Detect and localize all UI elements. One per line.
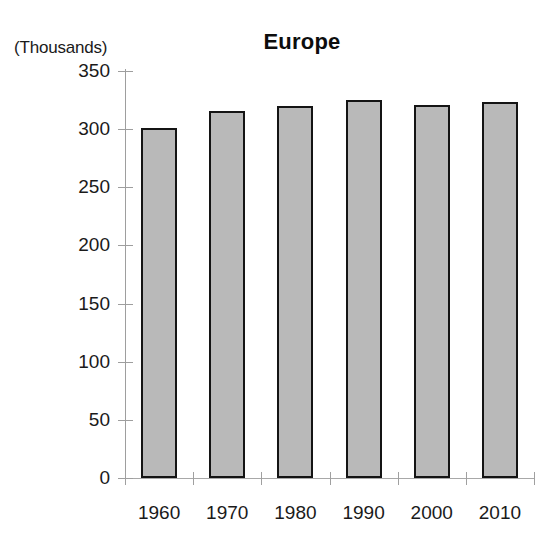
y-axis-tick-label: 50	[32, 409, 110, 431]
bar	[414, 105, 450, 478]
y-axis-tick-labels: 350300250200150100500	[32, 0, 110, 554]
bar	[346, 100, 382, 478]
bar	[209, 111, 245, 478]
x-axis-tick	[466, 472, 467, 485]
y-axis-tick	[118, 304, 133, 305]
y-axis-tick	[118, 71, 133, 72]
y-axis-tick	[118, 362, 133, 363]
x-axis-tick-label: 1980	[274, 502, 316, 524]
x-axis-tick	[125, 472, 126, 485]
y-axis-tick-label: 150	[32, 293, 110, 315]
x-axis-tick-label: 2010	[479, 502, 521, 524]
y-axis-tick-label: 200	[32, 234, 110, 256]
y-axis-line	[125, 69, 126, 480]
y-axis-tick	[118, 129, 133, 130]
bar	[141, 128, 177, 478]
x-axis-tick	[261, 472, 262, 485]
y-axis-tick-label: 350	[32, 60, 110, 82]
x-axis-tick-label: 1960	[138, 502, 180, 524]
bar	[277, 106, 313, 478]
x-axis-tick-label: 1990	[342, 502, 384, 524]
x-axis-line	[118, 478, 534, 479]
x-axis-tick	[534, 472, 535, 485]
x-axis-tick-label: 2000	[411, 502, 453, 524]
y-axis-tick-label: 300	[32, 118, 110, 140]
x-axis-tick	[193, 472, 194, 485]
y-axis-tick-label: 250	[32, 176, 110, 198]
y-axis-tick-label: 100	[32, 351, 110, 373]
x-axis-tick	[330, 472, 331, 485]
y-axis-tick	[118, 187, 133, 188]
x-axis-tick	[398, 472, 399, 485]
y-axis-tick-label: 0	[32, 467, 110, 489]
bar	[482, 102, 518, 478]
x-axis-tick-label: 1970	[206, 502, 248, 524]
y-axis-tick	[118, 420, 133, 421]
bar-chart: (Thousands) Europe 350300250200150100500…	[0, 0, 559, 554]
y-axis-tick	[118, 245, 133, 246]
